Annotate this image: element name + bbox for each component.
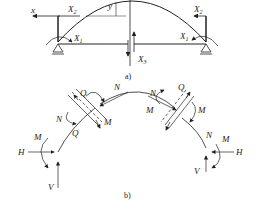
label-q-right-top: Q bbox=[178, 82, 185, 92]
label-x: x bbox=[30, 5, 35, 15]
label-h-right: H bbox=[235, 147, 243, 157]
label-v-right: V bbox=[194, 166, 201, 176]
label-h-left: H bbox=[17, 147, 25, 157]
label-v-left: V bbox=[48, 182, 55, 192]
label-x1-right: X1 bbox=[179, 31, 189, 42]
label-n-left-mid: N bbox=[55, 114, 63, 124]
label-n-right-top: N bbox=[149, 88, 157, 98]
label-m-left-mid: M bbox=[103, 117, 112, 127]
figure-b-free-body bbox=[28, 89, 234, 188]
label-x2-right: X2 bbox=[193, 4, 203, 15]
label-x3: X3 bbox=[137, 54, 147, 65]
label-m-right-top: M bbox=[145, 105, 154, 115]
caption-a: a) bbox=[125, 72, 132, 81]
label-x1-left: X1 bbox=[73, 33, 83, 44]
figure-a-arch bbox=[33, 0, 218, 66]
label-n-right-mid: N bbox=[205, 130, 213, 140]
caption-b: b) bbox=[124, 191, 131, 200]
label-x2-left: X2 bbox=[67, 4, 77, 15]
label-n-left-top: N bbox=[113, 82, 121, 92]
label-m-right-mid: M bbox=[197, 105, 206, 115]
label-y: y bbox=[107, 1, 112, 11]
label-q-left-top: Q bbox=[80, 88, 87, 98]
label-m-right: M bbox=[221, 134, 230, 144]
label-m-left: M bbox=[33, 132, 42, 142]
structural-diagram: x X2 X1 y X2 X1 X3 a) bbox=[0, 0, 255, 201]
label-q-left-bot: Q bbox=[72, 128, 79, 138]
